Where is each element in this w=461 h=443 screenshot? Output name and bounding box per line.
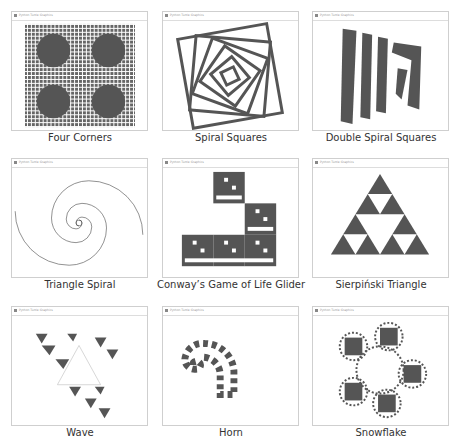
gallery-tile-horn: Python Turtle Graphics Horn (152, 296, 302, 443)
caption: Conway’s Game of Life Glider (152, 279, 310, 290)
gallery-tile-wave: Python Turtle Graphics Wave (1, 296, 151, 443)
wave-drawing (12, 316, 147, 425)
turtle-window: Python Turtle Graphics (162, 306, 299, 426)
app-icon (14, 14, 17, 17)
gallery-tile-spiral-squares: Python Turtle Graphics Spiral Squares (152, 1, 302, 149)
window-titlebar: Python Turtle Graphics (313, 307, 448, 316)
turtle-window: Python Turtle Graphics (312, 158, 449, 278)
turtle-window: Python Turtle Graphics (312, 11, 449, 131)
window-titlebar: Python Turtle Graphics (163, 307, 298, 316)
window-title: Python Turtle Graphics (170, 308, 204, 312)
spiral-squares-drawing (163, 21, 298, 130)
caption: Wave (1, 427, 159, 438)
window-title: Python Turtle Graphics (170, 13, 204, 17)
caption: Double Spiral Squares (302, 132, 460, 143)
window-title: Python Turtle Graphics (19, 13, 53, 17)
double-spiral-squares-drawing (313, 21, 448, 130)
caption: Snowflake (302, 427, 460, 438)
gallery-tile-double-spiral-squares: Python Turtle Graphics Double Spiral Squ… (302, 1, 452, 149)
horn-drawing (163, 316, 298, 425)
app-icon (14, 161, 17, 164)
window-titlebar: Python Turtle Graphics (163, 12, 298, 21)
turtle-window: Python Turtle Graphics (11, 11, 148, 131)
app-icon (165, 14, 168, 17)
app-icon (315, 309, 318, 312)
gallery-tile-game-of-life-glider: Python Turtle Graphics Co (152, 148, 302, 296)
app-icon (165, 309, 168, 312)
turtle-window: Python Turtle Graphics (312, 306, 449, 426)
caption: Horn (152, 427, 310, 438)
gallery-tile-sierpinski-triangle: Python Turtle Graphics Sierpiński Triang… (302, 148, 452, 296)
turtle-window: Python Turtle Graphics (162, 158, 299, 278)
window-title: Python Turtle Graphics (320, 308, 354, 312)
triangle-spiral-drawing (12, 168, 147, 277)
window-titlebar: Python Turtle Graphics (313, 12, 448, 21)
app-icon (315, 161, 318, 164)
window-titlebar: Python Turtle Graphics (12, 307, 147, 316)
four-corners-drawing (12, 21, 147, 130)
snowflake-drawing (313, 316, 448, 425)
window-titlebar: Python Turtle Graphics (313, 159, 448, 168)
window-titlebar: Python Turtle Graphics (163, 159, 298, 168)
turtle-window: Python Turtle Graphics (11, 306, 148, 426)
window-titlebar: Python Turtle Graphics (12, 12, 147, 21)
window-title: Python Turtle Graphics (320, 160, 354, 164)
gallery-tile-triangle-spiral: Python Turtle Graphics Triangle Spiral (1, 148, 151, 296)
caption: Triangle Spiral (1, 279, 159, 290)
glider-drawing (163, 168, 298, 277)
turtle-window: Python Turtle Graphics (11, 158, 148, 278)
app-icon (14, 309, 17, 312)
window-title: Python Turtle Graphics (19, 308, 53, 312)
caption: Four Corners (1, 132, 159, 143)
gallery-tile-four-corners: Python Turtle Graphics Four Corners (1, 1, 151, 149)
caption: Spiral Squares (152, 132, 310, 143)
window-titlebar: Python Turtle Graphics (12, 159, 147, 168)
caption: Sierpiński Triangle (302, 279, 460, 290)
gallery-tile-snowflake: Python Turtle Graphics Snowflake (302, 296, 452, 443)
app-icon (165, 161, 168, 164)
window-title: Python Turtle Graphics (19, 160, 53, 164)
window-title: Python Turtle Graphics (320, 13, 354, 17)
window-title: Python Turtle Graphics (170, 160, 204, 164)
app-icon (315, 14, 318, 17)
turtle-window: Python Turtle Graphics (162, 11, 299, 131)
sierpinski-drawing (313, 168, 448, 277)
